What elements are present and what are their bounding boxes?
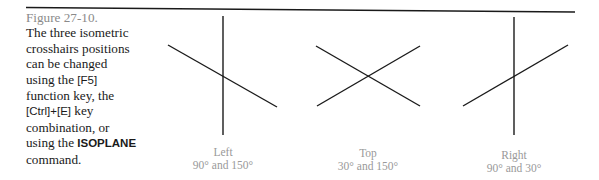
- key-f5: [F5]: [77, 74, 97, 86]
- caption-text-2: function key, the: [26, 88, 114, 103]
- right-label-angles: 90° and 30°: [454, 162, 574, 175]
- top-label-angles: 30° and 150°: [308, 160, 428, 173]
- right-crosshair: [463, 17, 568, 135]
- caption-text-4: command.: [26, 152, 81, 167]
- top-label: Top 30° and 150°: [308, 147, 428, 173]
- left-label: Left 90° and 150°: [163, 146, 283, 172]
- left-label-name: Left: [163, 146, 283, 159]
- left-crosshair: [168, 16, 277, 135]
- right-label: Right 90° and 30°: [454, 149, 574, 175]
- right-label-name: Right: [454, 149, 574, 162]
- top-label-name: Top: [308, 147, 428, 160]
- right-30-axis: [463, 45, 568, 106]
- key-ctrl-e: [Ctrl]+[E]: [26, 105, 71, 117]
- figure-number: Figure 27-10.: [26, 10, 138, 25]
- left-label-angles: 90° and 150°: [163, 159, 283, 172]
- figure-caption: Figure 27-10.The three isometric crossha…: [26, 10, 138, 167]
- command-isoplane: ISOPLANE: [77, 137, 136, 149]
- top-crosshair: [316, 46, 420, 106]
